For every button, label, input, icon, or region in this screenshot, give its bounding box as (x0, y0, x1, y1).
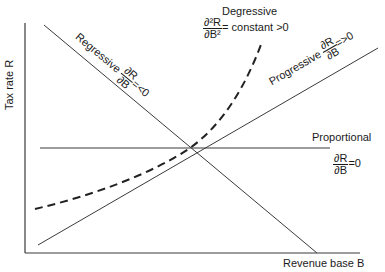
degressive-condition: = constant >0 (222, 21, 289, 33)
proportional-condition: =0 (348, 157, 361, 169)
proportional-title: Proportional (312, 131, 371, 143)
x-axis-label: Revenue base B (283, 257, 364, 269)
degressive-title: Degressive (222, 5, 277, 17)
degressive-derivative: ∂²R ∂B² (203, 17, 222, 40)
proportional-formula: ∂R ∂B =0 (333, 153, 361, 176)
regressive-line (44, 25, 317, 253)
degressive-curve (35, 42, 262, 209)
y-axis-label: Tax rate R (3, 60, 15, 110)
progressive-line (38, 48, 378, 245)
degressive-formula: ∂²R ∂B² = constant >0 (203, 17, 289, 40)
proportional-derivative: ∂R ∂B (333, 153, 348, 176)
